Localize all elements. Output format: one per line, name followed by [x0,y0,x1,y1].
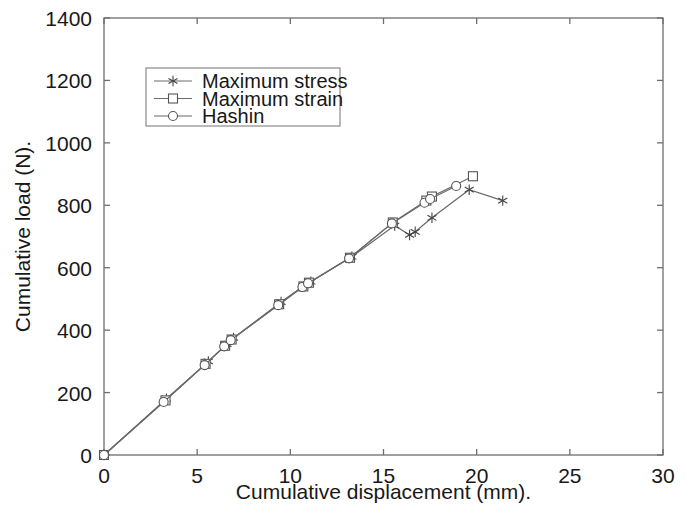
data-point-circle-marker [304,279,313,288]
data-point-star-marker [411,227,420,237]
x-axis-title: Cumulative displacement (mm). [236,480,531,503]
series-line [104,186,456,455]
data-series [99,172,507,460]
x-tick-label: 5 [191,464,203,487]
y-tick-label: 400 [57,319,92,342]
series-1 [99,184,507,460]
y-tick-label: 1400 [45,7,92,30]
y-tick-label: 1200 [45,69,92,92]
data-point-circle-marker [426,195,435,204]
legend: Maximum stressMaximum strainHashin [146,68,348,127]
plot-canvas: 0510152025300200400600800100012001400 Ma… [0,0,686,506]
y-axis-title: Cumulative load (N). [11,141,34,332]
data-point-star-marker [465,184,474,194]
y-tick-label: 1000 [45,132,92,155]
data-point-star-marker [498,195,507,205]
x-tick-label: 25 [558,464,581,487]
legend-label: Hashin [202,105,264,127]
data-point-square-marker [468,172,477,181]
series-line [104,176,473,455]
y-tick-label: 200 [57,382,92,405]
y-tick-label: 0 [80,444,92,467]
y-tick-label: 600 [57,257,92,280]
data-point-square-marker [169,94,178,103]
data-point-circle-marker [226,336,235,345]
data-point-circle-marker [169,112,178,121]
series-2 [100,172,478,460]
x-tick-label: 30 [651,464,674,487]
data-point-circle-marker [387,219,396,228]
data-point-circle-marker [159,397,168,406]
y-tick-label: 800 [57,194,92,217]
series-line [104,190,503,455]
chart-figure: 0510152025300200400600800100012001400 Ma… [0,0,686,506]
data-point-circle-marker [452,181,461,190]
data-point-circle-marker [100,451,109,460]
data-point-circle-marker [345,254,354,263]
data-point-star-marker [405,230,414,240]
data-point-star-marker [427,213,436,223]
series-3 [100,181,461,459]
axes: 0510152025300200400600800100012001400 [45,7,674,487]
data-point-circle-marker [200,361,209,370]
x-tick-label: 0 [98,464,110,487]
data-point-circle-marker [274,301,283,310]
